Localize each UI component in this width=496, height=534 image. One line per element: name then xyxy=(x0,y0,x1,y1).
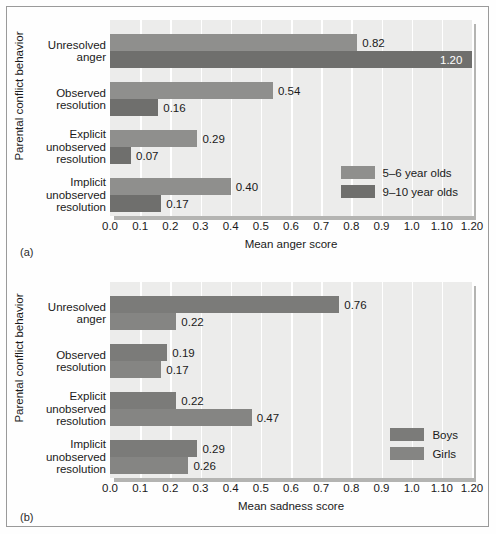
legend-swatch xyxy=(390,428,424,441)
category-label-line: anger xyxy=(30,51,106,64)
bar xyxy=(110,296,339,313)
x-axis-tick-label: 1.10 xyxy=(431,220,453,232)
bar xyxy=(110,457,188,474)
bar xyxy=(110,178,231,195)
legend-item[interactable]: 5–6 year olds xyxy=(341,166,458,179)
gridline xyxy=(472,282,474,478)
x-axis-tick-label: 0.5 xyxy=(253,482,269,494)
bar xyxy=(110,392,176,409)
category-label-line: resolution xyxy=(30,153,106,166)
chart-panel-b: Parental conflict behaviorUnresolvedange… xyxy=(6,268,489,527)
bar xyxy=(110,195,161,212)
category-label-line: Unresolved xyxy=(30,301,106,314)
panel-marker: (b) xyxy=(20,511,33,523)
bar xyxy=(110,99,158,116)
category-label-line: Observed xyxy=(30,349,106,362)
legend-label: Boys xyxy=(432,429,458,441)
category-label-line: resolution xyxy=(30,463,106,476)
category-label: Unresolvedanger xyxy=(30,39,106,64)
x-axis-tick-label: 1.20 xyxy=(461,482,483,494)
bar xyxy=(110,147,131,164)
category-label-line: Unresolved xyxy=(30,39,106,52)
bar-value-label: 0.54 xyxy=(278,85,300,97)
category-label: Explicitunobservedresolution xyxy=(30,390,106,428)
x-axis-tick-label: 0.6 xyxy=(283,220,299,232)
bar-value-label: 0.47 xyxy=(257,412,279,424)
category-label-line: anger xyxy=(30,313,106,326)
bar xyxy=(110,51,472,68)
category-label-line: Implicit xyxy=(30,438,106,451)
category-label-line: Implicit xyxy=(30,176,106,189)
legend-label: Girls xyxy=(432,448,456,460)
legend-label: 9–10 year olds xyxy=(383,186,458,198)
x-axis-tick-label: 0.3 xyxy=(193,220,209,232)
bar xyxy=(110,34,357,51)
bar-value-label: 0.22 xyxy=(181,395,203,407)
legend: BoysGirls xyxy=(390,428,458,466)
bar-value-label: 0.26 xyxy=(193,460,215,472)
bar-value-label: 0.82 xyxy=(362,37,384,49)
x-axis-tick-label: 0.7 xyxy=(313,482,329,494)
legend-item[interactable]: 9–10 year olds xyxy=(341,185,458,198)
y-axis-title: Parental conflict behavior xyxy=(13,11,25,181)
bar-value-label: 0.29 xyxy=(202,133,224,145)
x-axis-title: Mean anger score xyxy=(110,238,472,250)
x-axis-tick-label: 1.10 xyxy=(431,482,453,494)
category-label-group: UnresolvedangerObservedresolutionExplici… xyxy=(30,282,106,478)
category-label-group: UnresolvedangerObservedresolutionExplici… xyxy=(30,20,106,216)
x-axis-tick-label: 0.2 xyxy=(162,220,178,232)
category-label-line: Explicit xyxy=(30,128,106,141)
legend-swatch xyxy=(341,185,375,198)
x-axis-tick-label: 0.7 xyxy=(313,220,329,232)
category-label: Implicitunobservedresolution xyxy=(30,438,106,476)
x-axis-tick-label: 0.1 xyxy=(132,482,148,494)
plot-area: 0.821.200.540.160.290.070.400.175–6 year… xyxy=(110,20,472,216)
x-axis-tick-label: 1.20 xyxy=(461,220,483,232)
legend-swatch xyxy=(390,447,424,460)
category-label-line: unobserved xyxy=(30,141,106,154)
bar-value-label: 0.40 xyxy=(236,181,258,193)
category-label-line: resolution xyxy=(30,201,106,214)
bar-value-label: 0.29 xyxy=(202,443,224,455)
category-label: Explicitunobservedresolution xyxy=(30,128,106,166)
category-label-line: unobserved xyxy=(30,451,106,464)
gridline xyxy=(351,282,353,478)
x-axis-tick-label: 1.0 xyxy=(404,220,420,232)
gridline xyxy=(472,20,474,216)
bar-value-label: 0.19 xyxy=(172,347,194,359)
x-axis-ticks: 0.00.10.20.30.40.50.60.70.80.91.01.101.2… xyxy=(110,482,472,498)
x-axis-tick-label: 1.0 xyxy=(404,482,420,494)
x-axis-tick-label: 0.2 xyxy=(162,482,178,494)
x-axis-tick-label: 0.5 xyxy=(253,220,269,232)
category-label-line: resolution xyxy=(30,415,106,428)
plot-area: 0.760.220.190.170.220.470.290.26BoysGirl… xyxy=(110,282,472,478)
bar-value-label: 0.76 xyxy=(344,299,366,311)
bar xyxy=(110,440,197,457)
category-label-line: resolution xyxy=(30,99,106,112)
x-axis-tick-label: 0.4 xyxy=(223,482,239,494)
x-axis-tick-label: 0.0 xyxy=(102,220,118,232)
bar xyxy=(110,130,197,147)
legend-swatch xyxy=(341,166,375,179)
category-label-line: Observed xyxy=(30,87,106,100)
x-axis-tick-label: 0.4 xyxy=(223,220,239,232)
bar-value-label: 0.07 xyxy=(136,150,158,162)
category-label: Observedresolution xyxy=(30,87,106,112)
legend-label: 5–6 year olds xyxy=(383,167,452,179)
category-label: Implicitunobservedresolution xyxy=(30,176,106,214)
category-label: Unresolvedanger xyxy=(30,301,106,326)
x-axis-tick-label: 0.8 xyxy=(343,220,359,232)
category-label: Observedresolution xyxy=(30,349,106,374)
legend-item[interactable]: Girls xyxy=(390,447,458,460)
x-axis-tick-label: 0.0 xyxy=(102,482,118,494)
chart-panel-a: Parental conflict behaviorUnresolvedange… xyxy=(6,6,489,262)
figure: Parental conflict behaviorUnresolvedange… xyxy=(0,0,496,534)
gridline xyxy=(382,282,384,478)
bar-value-label: 0.17 xyxy=(166,364,188,376)
bar-value-label: 0.16 xyxy=(163,102,185,114)
x-axis-tick-label: 0.6 xyxy=(283,482,299,494)
x-axis-tick-label: 0.1 xyxy=(132,220,148,232)
legend-item[interactable]: Boys xyxy=(390,428,458,441)
bar xyxy=(110,313,176,330)
category-label-line: Explicit xyxy=(30,390,106,403)
